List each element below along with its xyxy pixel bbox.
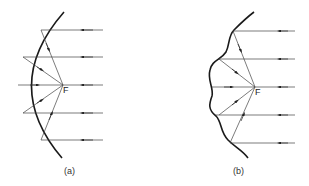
focus-label-a: F xyxy=(63,85,69,95)
panel-a xyxy=(18,12,103,158)
reflected-arrows-a xyxy=(30,43,52,120)
incoming-arrows-b xyxy=(279,31,288,143)
incoming-arrows-a xyxy=(82,30,93,140)
focus-label-b: F xyxy=(255,87,261,97)
wavy-mirror xyxy=(209,12,254,158)
panel-label-b: (b) xyxy=(233,166,244,176)
panel-label-a: (a) xyxy=(64,166,75,176)
diagram-canvas xyxy=(0,0,309,186)
reflected-arrows-b xyxy=(224,44,244,121)
panel-b xyxy=(209,12,295,158)
